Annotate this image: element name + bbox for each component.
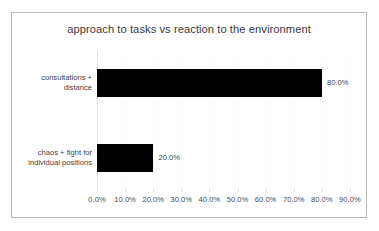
category-label: consultations + distance <box>0 73 92 92</box>
x-tick-mark <box>350 189 351 192</box>
x-tick-mark <box>266 189 267 192</box>
x-tick-mark <box>294 189 295 192</box>
x-tick-label: 60.0% <box>255 195 277 204</box>
category-label-line: distance <box>0 83 92 93</box>
x-tick-label: 0.0% <box>88 195 105 204</box>
x-tick-mark <box>322 189 323 192</box>
x-tick-label: 30.0% <box>171 195 193 204</box>
x-tick-mark <box>209 189 210 192</box>
chart-frame: approach to tasks vs reaction to the env… <box>11 12 367 218</box>
category-label-line: individual positions <box>0 158 92 168</box>
x-tick-label: 10.0% <box>114 195 136 204</box>
x-tick-mark <box>97 189 98 192</box>
gridline <box>350 51 351 189</box>
category-label-line: consultations + <box>0 73 92 83</box>
plot-area: consultations + distance chaos + fight f… <box>97 51 350 189</box>
gridline <box>322 51 323 189</box>
x-tick-label: 70.0% <box>283 195 305 204</box>
bar-value-label: 20.0% <box>159 144 181 172</box>
x-tick-mark <box>125 189 126 192</box>
category-label-line: chaos + fight for <box>0 148 92 158</box>
bar[interactable] <box>97 69 322 97</box>
x-tick-label: 20.0% <box>142 195 164 204</box>
chart-title: approach to tasks vs reaction to the env… <box>12 23 366 35</box>
x-tick-mark <box>238 189 239 192</box>
x-tick-label: 40.0% <box>199 195 221 204</box>
x-tick-label: 90.0% <box>339 195 361 204</box>
x-tick-mark <box>181 189 182 192</box>
bar[interactable] <box>97 144 153 172</box>
x-tick-label: 80.0% <box>311 195 333 204</box>
x-tick-mark <box>153 189 154 192</box>
category-label: chaos + fight for individual positions <box>0 148 92 167</box>
bar-value-label: 80.0% <box>327 69 349 97</box>
x-tick-label: 50.0% <box>227 195 249 204</box>
